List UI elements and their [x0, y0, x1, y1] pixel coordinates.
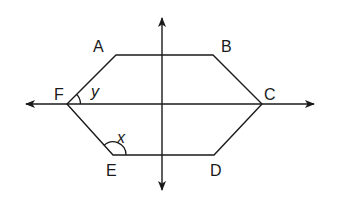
vertex-label-a: A — [93, 38, 104, 55]
angle-arc-y — [77, 94, 81, 104]
vertex-label-c: C — [264, 86, 276, 103]
vertex-label-f: F — [54, 86, 64, 103]
vertex-label-d: D — [210, 162, 222, 179]
vertex-label-e: E — [106, 162, 117, 179]
angle-label-y: y — [90, 83, 100, 100]
vertex-label-b: B — [221, 38, 232, 55]
angle-label-x: x — [116, 129, 126, 146]
hexagon-abcdef — [67, 55, 262, 155]
hexagon-diagram: A B C D E F y x — [0, 0, 339, 201]
